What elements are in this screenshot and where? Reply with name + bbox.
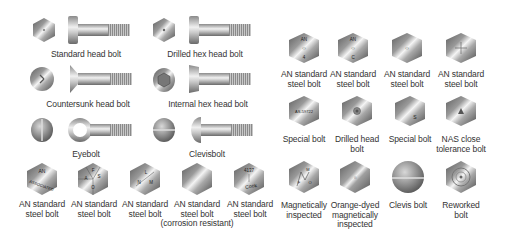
- an-cross-head-icon: [444, 32, 478, 64]
- head-marking-label: AN standardsteel bolt: [330, 70, 376, 89]
- svg-text:☼: ☼: [353, 174, 358, 180]
- cook-head-icon: 4137 Cook: [232, 162, 266, 196]
- bolt-type-label: Standard head bolt: [51, 50, 121, 60]
- head-marking-label: NAS closetolerance bolt: [436, 135, 486, 154]
- eyebolt-head-icon: [30, 117, 54, 143]
- standard-hex-head-icon: [32, 17, 56, 43]
- magnetically-inspected-head-icon: M F O: [287, 160, 321, 194]
- head-marking-label: AN standardsteel bolt(corrosion resistan…: [160, 200, 233, 229]
- afso-head-icon: F A S O: [76, 162, 110, 196]
- head-marking-label: Reworkedbolt: [442, 201, 479, 220]
- reworked-bolt-head-icon: [444, 160, 478, 194]
- an-plain-head-icon: ☼: [390, 32, 424, 64]
- head-marking-label: AN standardsteel bolt: [19, 200, 65, 219]
- clevis-bolt-head-icon: [391, 160, 425, 194]
- svg-text:O: O: [91, 185, 95, 190]
- svg-text:O: O: [308, 180, 311, 185]
- svg-text:AS-59722: AS-59722: [295, 109, 314, 114]
- special-bolt-s-head-icon: S: [393, 95, 427, 127]
- clevis-head-icon: [152, 117, 176, 143]
- head-marking-label: Clevis bolt: [389, 201, 427, 211]
- svg-text:AN: AN: [301, 37, 307, 42]
- head-marking-label: Drilled headbolt: [335, 135, 379, 154]
- special-bolt-as-head-icon: AS-59722: [287, 95, 321, 127]
- standard-bolt-side-icon: [68, 16, 132, 44]
- head-marking-label: AN standardsteel bolt: [384, 70, 430, 89]
- head-marking-label: AN standardsteel bolt: [438, 70, 484, 89]
- svg-text:S: S: [97, 174, 100, 179]
- svg-text:F: F: [92, 168, 95, 173]
- bolt-type-label: Clevisbolt: [189, 150, 225, 160]
- svg-text:☼: ☼: [404, 45, 410, 51]
- head-marking-label: AN standardsteel bolt: [281, 70, 327, 89]
- drilled-hex-head-icon: [152, 17, 176, 43]
- bolt-type-label: Countersunk head bolt: [46, 100, 129, 110]
- corrosion-resistant-head-icon: [180, 162, 214, 196]
- svg-text:A: A: [84, 176, 87, 181]
- head-marking-label: Special bolt: [283, 135, 326, 145]
- an-4-head-icon: AN ☼ 4: [287, 32, 321, 64]
- an-c-head-icon: AN ☼ C: [336, 32, 370, 64]
- internal-hex-head-icon: [152, 67, 176, 93]
- svg-text:4137: 4137: [244, 168, 255, 173]
- orange-dyed-head-icon: ☼: [338, 160, 372, 194]
- svg-text:M: M: [149, 180, 153, 185]
- svg-text:☼: ☼: [350, 45, 356, 51]
- bolt-type-label: Drilled hex head bolt: [167, 50, 242, 60]
- svg-text:M: M: [306, 167, 309, 172]
- internal-hex-bolt-side-icon: [189, 65, 253, 93]
- svg-text:N: N: [137, 180, 140, 185]
- head-marking-label: AN standardsteel bolt: [227, 200, 273, 219]
- countersunk-head-icon: [29, 66, 55, 92]
- svg-text:AN: AN: [350, 37, 356, 42]
- clevis-bolt-side-icon: [191, 117, 253, 143]
- svg-text:☼: ☼: [301, 45, 307, 51]
- drilled-bolt-side-icon: [189, 16, 253, 44]
- head-marking-label: AN standardsteel bolt: [71, 200, 117, 219]
- head-marking-label: Magneticallyinspected: [281, 201, 327, 220]
- bolt-type-label: Internal hex head bolt: [168, 100, 248, 110]
- drilled-head-icon: [340, 95, 374, 127]
- an-associated-head-icon: AN ASSOCIATED: [25, 162, 59, 196]
- head-marking-label: Orange-dyedmagneticallyinspected: [331, 201, 380, 230]
- nas-close-tolerance-head-icon: [444, 95, 478, 127]
- eyebolt-side-icon: [68, 116, 134, 144]
- lnm-head-icon: L N M: [128, 162, 162, 196]
- svg-text:AN: AN: [39, 168, 46, 174]
- countersunk-bolt-side-icon: [70, 65, 132, 93]
- head-marking-label: Special bolt: [389, 135, 432, 145]
- bolt-type-label: Eyebolt: [72, 150, 100, 160]
